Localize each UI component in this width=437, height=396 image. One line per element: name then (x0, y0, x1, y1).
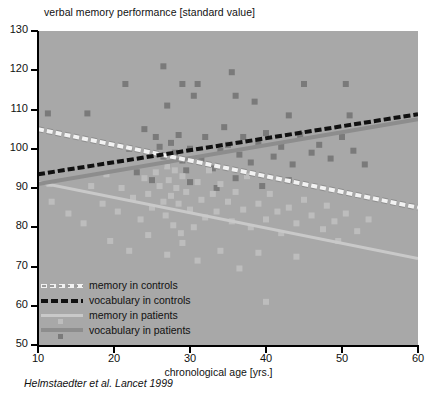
legend-key-marker-dark (58, 334, 63, 339)
chart-figure: verbal memory performance [standard valu… (0, 0, 437, 396)
data-point (236, 152, 242, 158)
data-point (316, 142, 322, 148)
data-point (179, 81, 185, 87)
y-tick-label-90: 90 (0, 180, 28, 192)
legend-item[interactable]: vocabulary in patients (40, 323, 240, 338)
data-point (255, 250, 261, 256)
data-point (115, 209, 121, 215)
data-point (157, 144, 163, 150)
chart-legend: memory in controlsvocabulary in controls… (40, 278, 240, 338)
data-point (301, 197, 307, 203)
data-point (248, 159, 254, 165)
data-point (198, 197, 204, 203)
data-point (173, 185, 179, 191)
data-point (366, 216, 372, 222)
data-point (217, 181, 223, 187)
data-point (168, 193, 174, 199)
data-point (221, 124, 227, 130)
x-tick-label-20: 20 (99, 352, 129, 364)
data-point (255, 201, 261, 207)
legend-item[interactable]: memory in patients (40, 308, 240, 323)
data-point (164, 103, 170, 109)
y-tick-label-50: 50 (0, 337, 28, 349)
data-point (179, 240, 185, 246)
data-point (233, 175, 239, 181)
data-point (49, 199, 55, 205)
x-axis-line (38, 345, 419, 347)
data-point (236, 265, 242, 271)
data-point (45, 110, 51, 116)
data-point (170, 222, 176, 228)
data-point (195, 258, 201, 264)
data-point (195, 179, 201, 185)
data-point (168, 140, 174, 146)
data-point (233, 93, 239, 99)
data-point (324, 203, 330, 209)
data-point (134, 169, 140, 175)
y-tick-label-100: 100 (0, 141, 28, 153)
y-tick-70 (31, 266, 38, 268)
trend-line (38, 119, 418, 184)
data-point (286, 112, 292, 118)
data-point (126, 248, 132, 254)
y-tick-80 (31, 226, 38, 228)
data-point (88, 183, 94, 189)
legend-label: vocabulary in controls (89, 295, 191, 306)
legend-label: memory in patients (89, 310, 178, 321)
data-point (293, 220, 299, 226)
data-point (271, 154, 277, 160)
data-point (141, 126, 147, 132)
data-point (290, 161, 296, 167)
data-point (160, 199, 166, 205)
data-point (343, 211, 349, 217)
data-point (350, 148, 356, 154)
data-point (328, 156, 334, 162)
data-point (119, 185, 125, 191)
data-point (145, 191, 151, 197)
data-point (286, 205, 292, 211)
data-point (141, 175, 147, 181)
y-tick-60 (31, 305, 38, 307)
data-point (187, 179, 193, 185)
data-point (153, 169, 159, 175)
data-point (191, 224, 197, 230)
data-point (217, 248, 223, 254)
data-point (259, 183, 265, 189)
data-point (176, 132, 182, 138)
data-point (343, 81, 349, 87)
y-tick-label-60: 60 (0, 298, 28, 310)
data-point (347, 112, 353, 118)
legend-item[interactable]: vocabulary in controls (40, 293, 240, 308)
legend-item[interactable]: memory in controls (40, 278, 240, 293)
trend-lines-layer (38, 114, 418, 258)
data-point (191, 93, 197, 99)
y-tick-label-120: 120 (0, 62, 28, 74)
data-point (320, 226, 326, 232)
x-tick-label-40: 40 (251, 352, 281, 364)
data-point (65, 211, 71, 217)
data-point (293, 254, 299, 260)
data-point (339, 134, 345, 140)
y-tick-label-130: 130 (0, 23, 28, 35)
data-point (160, 63, 166, 69)
y-tick-label-110: 110 (0, 102, 28, 114)
data-point (240, 207, 246, 213)
y-tick-120 (31, 69, 38, 71)
data-point (166, 177, 172, 183)
data-point (178, 230, 184, 236)
data-point (233, 189, 239, 195)
x-tick-label-10: 10 (23, 352, 53, 364)
data-point (100, 201, 106, 207)
data-point (362, 161, 368, 167)
trend-line (38, 114, 418, 174)
source-caption: Helmstaedter et al. Lancet 1999 (24, 377, 173, 389)
legend-key (40, 324, 84, 338)
data-point (81, 220, 87, 226)
data-point (145, 232, 151, 238)
y-tick-110 (31, 109, 38, 111)
data-point (263, 130, 269, 136)
data-point (157, 183, 163, 189)
data-point (229, 69, 235, 75)
data-point (107, 238, 113, 244)
data-point (176, 201, 182, 207)
